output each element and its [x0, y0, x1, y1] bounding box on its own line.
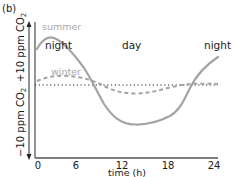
x-tick-24: 24 [208, 160, 221, 171]
y-axis-label-bottom: −10 ppm CO2 [15, 88, 28, 157]
figure-panel: (b) +10 ppm CO2 −10 ppm CO2 summer night… [0, 0, 236, 177]
series-label-summer: summer [42, 21, 81, 32]
annotation-night-left: night [45, 39, 72, 51]
x-tick-0: 0 [35, 160, 41, 171]
x-axis-title: time (h) [108, 167, 146, 177]
chart-canvas: (b) +10 ppm CO2 −10 ppm CO2 summer night… [0, 0, 236, 177]
annotation-night-right: night [204, 39, 231, 51]
series-label-winter: winter [51, 66, 81, 77]
panel-label: (b) [2, 3, 16, 14]
x-tick-6: 6 [73, 160, 79, 171]
annotation-day: day [122, 39, 141, 51]
x-tick-18: 18 [162, 160, 175, 171]
y-axis-label-top: +10 ppm CO2 [15, 13, 28, 82]
